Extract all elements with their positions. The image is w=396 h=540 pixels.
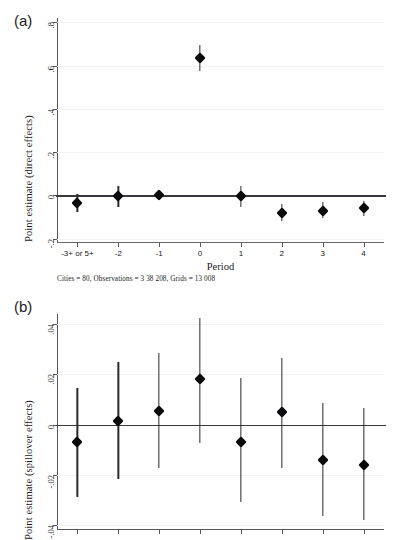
data-point-marker [276,406,287,417]
gridline [57,152,384,153]
x-axis-tick [364,243,365,247]
x-axis-tick-label: -2 [115,249,122,258]
panel-b-x-axis-line [57,529,384,530]
x-axis-tick [282,243,283,247]
y-axis-tick-label: .04 [46,324,56,335]
panel-a-note: Cities = 80, Observations = 3 38 208, Gr… [57,275,215,283]
data-point-marker [276,207,287,218]
panel-a-x-axis-title: Period [57,261,384,272]
x-axis-tick [323,243,324,247]
x-axis-tick-label: 4 [361,249,365,258]
x-axis-tick [282,530,283,534]
data-point-marker [194,52,205,63]
gridline [57,66,384,67]
x-axis-tick-label: -1 [156,249,163,258]
y-axis-tick-label: 0 [46,195,56,199]
data-point-marker [358,459,369,470]
x-axis-tick [200,243,201,247]
panel-b: (b) Point estimate (spillover effects) .… [0,296,396,536]
x-axis-tick [77,243,78,247]
y-axis-tick-label: 0 [46,425,56,429]
x-axis-tick [200,530,201,534]
x-axis-tick [241,530,242,534]
y-axis-tick-label: .8 [46,22,56,28]
data-point-marker [154,405,165,416]
data-point-marker [235,436,246,447]
zero-reference-line [56,195,386,197]
panel-a-y-axis-title: Point estimate (direct effects) [23,115,34,242]
panel-b-y-axis-line [57,314,58,530]
x-axis-tick [159,530,160,534]
y-axis-tick-label: .6 [46,66,56,72]
data-point-marker [317,454,328,465]
x-axis-tick-label: 0 [198,249,202,258]
gridline [57,22,384,23]
data-point-marker [72,197,83,208]
data-point-marker [194,374,205,385]
y-axis-tick-label: .4 [46,109,56,115]
panel-a-x-axis-line [57,242,384,243]
gridline [57,374,384,375]
gridline [57,525,384,526]
x-axis-tick [118,243,119,247]
y-axis-tick-label: .02 [46,374,56,385]
x-axis-tick-label: -3+ or 5+ [61,249,93,258]
data-point-marker [358,203,369,214]
panel-b-tag: (b) [14,298,32,315]
panel-a-y-axis-line [57,18,58,243]
gridline [57,475,384,476]
data-point-marker [72,436,83,447]
x-axis-tick [364,530,365,534]
x-axis-tick [118,530,119,534]
panel-a: (a) Point estimate (direct effects) Peri… [0,10,396,288]
x-axis-tick [241,243,242,247]
y-axis-tick-label: -.02 [46,475,56,488]
x-axis-tick-label: 3 [320,249,324,258]
gridline [57,239,384,240]
data-point-marker [235,191,246,202]
panel-a-plot-area: Period .8.6.4.20-.2-3+ or 5+-2-101234 [57,18,384,243]
data-point-marker [113,191,124,202]
page-header-ghost-text [0,0,396,8]
y-axis-tick-label: -.04 [46,525,56,538]
y-axis-tick-label: .2 [46,152,56,158]
y-axis-tick-label: -.2 [46,239,56,248]
panel-b-plot-area: .04.020-.02-.04 [57,314,384,530]
data-point-marker [317,205,328,216]
data-point-marker [154,190,165,201]
x-axis-tick-label: 2 [280,249,284,258]
panel-a-tag: (a) [14,12,32,29]
x-axis-tick [159,243,160,247]
zero-reference-line [56,425,386,427]
gridline [57,324,384,325]
x-axis-tick [323,530,324,534]
gridline [57,109,384,110]
x-axis-tick [77,530,78,534]
panel-b-y-axis-title: Point estimate (spillover effects) [23,400,34,540]
x-axis-tick-label: 1 [239,249,243,258]
